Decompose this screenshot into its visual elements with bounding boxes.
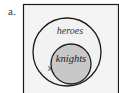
- knights-label: knights: [56, 53, 86, 64]
- venn-diagram: heroes knights x: [0, 0, 119, 93]
- heroes-label: heroes: [57, 25, 83, 36]
- element-marker: x: [48, 63, 53, 73]
- knights-circle: [51, 44, 91, 84]
